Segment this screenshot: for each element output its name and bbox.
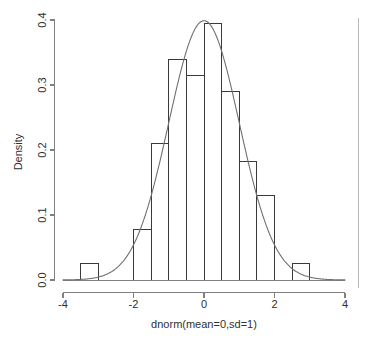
histogram-bar [292,264,310,280]
y-tick-label: 0.3 [36,77,48,92]
histogram-bar [169,59,187,280]
histogram-bar [222,92,240,281]
x-tick-label: 2 [271,298,277,310]
histogram-plot: 0.00.10.20.30.4 -4-2024 dnorm(mean=0,sd=… [0,0,371,350]
y-axis [50,20,55,280]
histogram-bar [257,196,275,281]
x-tick-labels: -4-2024 [58,298,348,310]
histogram-bar [151,144,169,281]
x-tick-label: -4 [58,298,68,310]
histogram-bar [204,23,222,280]
plot-canvas: 0.00.10.20.30.4 -4-2024 [0,0,371,350]
x-axis [63,293,345,298]
x-tick-label: 4 [342,298,348,310]
histogram-bar [134,229,152,280]
y-tick-label: 0.4 [36,12,48,27]
x-tick-label: 0 [201,298,207,310]
y-tick-label: 0.0 [36,272,48,287]
x-tick-label: -2 [129,298,139,310]
y-tick-label: 0.1 [36,207,48,222]
y-tick-label: 0.2 [36,142,48,157]
histogram-bar [186,75,204,280]
histogram-bars [63,23,345,280]
y-tick-labels: 0.00.10.20.30.4 [36,12,48,287]
histogram-bar [239,161,257,280]
